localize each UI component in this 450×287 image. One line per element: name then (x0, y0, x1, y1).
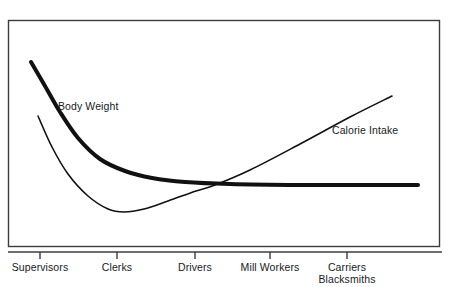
series-label-calorie-intake: Calorie Intake (332, 124, 398, 136)
chart-figure: Body Weight Calorie Intake SupervisorsCl… (0, 0, 450, 287)
x-tick-label-carriers: Carriers (328, 261, 366, 273)
x-tick-label-drivers: Drivers (178, 261, 212, 273)
x-tick-label-supervisors: Supervisors (12, 261, 69, 273)
figure-background (0, 0, 450, 287)
x-tick-label-mill-workers: Mill Workers (241, 261, 300, 273)
x-tick-label-blacksmiths: Blacksmiths (318, 273, 375, 285)
x-tick-label-clerks: Clerks (102, 261, 132, 273)
series-label-body-weight: Body Weight (58, 100, 118, 112)
chart-canvas: Body Weight Calorie Intake SupervisorsCl… (0, 0, 450, 287)
